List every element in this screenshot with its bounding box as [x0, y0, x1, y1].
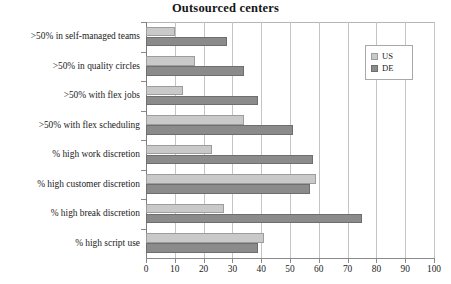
bar-de [146, 37, 227, 47]
bar-chart: Outsourced centers >50% in self-managed … [0, 0, 451, 284]
chart-row: % high break discretion [0, 199, 451, 229]
bar-us [146, 56, 195, 66]
x-axis-label-50: 50 [275, 264, 305, 274]
x-axis-label-70: 70 [333, 264, 363, 274]
legend: US DE [365, 45, 413, 80]
x-axis-label-10: 10 [160, 264, 190, 274]
category-label: >50% in quality circles [0, 52, 140, 82]
chart-row: % high customer discretion [0, 170, 451, 200]
x-axis-label-30: 30 [217, 264, 247, 274]
bar-us [146, 27, 175, 37]
legend-label-us: US [382, 52, 393, 61]
chart-title: Outsourced centers [0, 1, 451, 16]
bar-de [146, 184, 310, 194]
bar-de [146, 243, 258, 253]
x-axis-tick-20 [204, 258, 205, 263]
x-axis-label-20: 20 [189, 264, 219, 274]
category-label: >50% with flex jobs [0, 81, 140, 111]
x-axis-label-60: 60 [304, 264, 334, 274]
y-axis-tick [141, 140, 146, 141]
x-axis-tick-30 [232, 258, 233, 263]
y-axis-tick [141, 229, 146, 230]
legend-swatch-us-icon [371, 53, 378, 60]
x-axis-label-100: 100 [419, 264, 449, 274]
x-axis-tick-100 [434, 258, 435, 263]
x-axis-tick-10 [175, 258, 176, 263]
y-axis-tick [141, 81, 146, 82]
x-axis-label-0: 0 [131, 264, 161, 274]
bar-us [146, 115, 244, 125]
x-axis-tick-70 [348, 258, 349, 263]
y-axis-tick [141, 52, 146, 53]
category-label: % high work discretion [0, 140, 140, 170]
x-axis-label-80: 80 [361, 264, 391, 274]
x-axis-tick-60 [319, 258, 320, 263]
x-axis-tick-90 [405, 258, 406, 263]
x-axis-label-90: 90 [390, 264, 420, 274]
bar-us [146, 174, 316, 184]
chart-row: >50% with flex jobs [0, 81, 451, 111]
y-axis-tick [141, 170, 146, 171]
chart-row: % high work discretion [0, 140, 451, 170]
category-label: >50% with flex scheduling [0, 111, 140, 141]
x-axis-tick-0 [146, 258, 147, 263]
bar-de [146, 125, 293, 135]
bar-us [146, 233, 264, 243]
chart-row: % high script use [0, 229, 451, 259]
category-label: % high break discretion [0, 199, 140, 229]
y-axis-tick [141, 199, 146, 200]
category-label: >50% in self-managed teams [0, 22, 140, 52]
bar-de [146, 214, 362, 224]
x-axis-label-40: 40 [246, 264, 276, 274]
legend-swatch-de-icon [371, 65, 378, 72]
bar-us [146, 145, 212, 155]
x-axis-tick-40 [261, 258, 262, 263]
bar-de [146, 96, 258, 106]
chart-row: >50% with flex scheduling [0, 111, 451, 141]
bar-de [146, 66, 244, 76]
legend-label-de: DE [382, 64, 393, 73]
y-axis-tick [141, 111, 146, 112]
y-axis-tick [141, 22, 146, 23]
bar-us [146, 204, 224, 214]
x-axis-tick-50 [290, 258, 291, 263]
category-label: % high script use [0, 229, 140, 259]
x-axis-tick-80 [376, 258, 377, 263]
legend-item-de: DE [371, 63, 407, 74]
bar-us [146, 86, 183, 96]
legend-item-us: US [371, 51, 407, 62]
category-label: % high customer discretion [0, 170, 140, 200]
bar-de [146, 155, 313, 165]
